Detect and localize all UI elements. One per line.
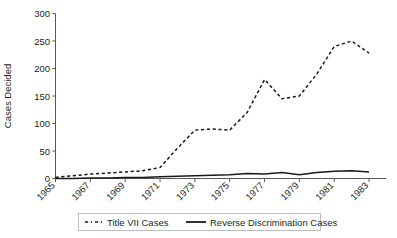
series-line-title-vii [56,41,370,177]
series-line-reverse-discrimination [56,171,370,179]
chart-legend: Title VII Cases Reverse Discrimination C… [79,214,338,231]
x-tick-label: 1975 [208,180,231,203]
x-tick-label: 1967 [69,180,92,203]
x-tick-label: 1979 [278,180,301,203]
x-tick-label: 1971 [139,180,162,203]
x-tick-label: 1981 [313,180,336,203]
y-tick-label: 300 [34,8,50,19]
legend-label-title-vii: Title VII Cases [107,217,169,228]
y-axis-tick-labels: 050100150200250300 [34,8,50,184]
legend-label-reverse-discrimination: Reverse Discrimination Cases [210,217,337,228]
x-axis-tick-marks [56,179,370,183]
x-axis-tick-labels: 1965196719691971197319751977197919811983 [34,180,370,203]
x-tick-label: 1977 [243,180,266,203]
chart-container: Cases Decided 050100150200250300 1965196… [0,0,397,238]
y-tick-label: 50 [39,146,50,157]
x-tick-label: 1973 [174,180,197,203]
x-tick-label: 1965 [34,180,57,203]
y-axis-title: Cases Decided [2,64,13,128]
y-tick-label: 150 [34,91,50,102]
line-chart: Cases Decided 050100150200250300 1965196… [0,0,397,238]
y-tick-label: 250 [34,36,50,47]
x-tick-label: 1969 [104,180,127,203]
y-tick-label: 100 [34,118,50,129]
y-tick-label: 200 [34,63,50,74]
x-tick-label: 1983 [348,180,371,203]
